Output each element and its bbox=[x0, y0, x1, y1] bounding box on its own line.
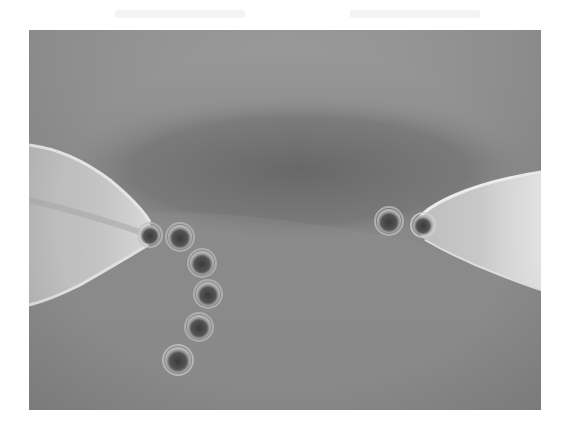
bleed-through-text-right bbox=[350, 10, 480, 18]
vignette bbox=[29, 30, 541, 410]
microscopy-image bbox=[29, 30, 541, 410]
bleed-through-text-left bbox=[115, 10, 245, 18]
microscopy-scene bbox=[29, 30, 541, 410]
